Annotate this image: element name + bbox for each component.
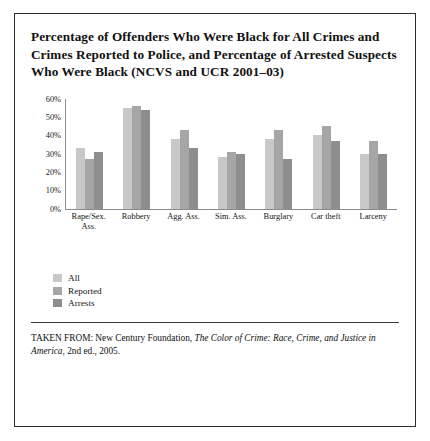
legend-item: Reported — [53, 285, 399, 297]
bar-group — [255, 99, 302, 209]
bar — [94, 152, 103, 209]
bar — [331, 141, 340, 209]
bar — [123, 108, 132, 209]
bar — [236, 154, 245, 209]
legend-label: Reported — [68, 286, 102, 296]
bar — [141, 110, 150, 209]
bar — [85, 159, 94, 209]
bar — [274, 130, 283, 209]
bar — [283, 159, 292, 209]
bar — [369, 141, 378, 209]
y-tick-label: 40% — [46, 131, 61, 140]
legend-swatch-icon — [53, 299, 62, 307]
x-tick-label: Robbery — [112, 212, 159, 232]
x-tick-label: Burglary — [255, 212, 302, 232]
bar — [313, 135, 322, 208]
legend-label: Arrests — [68, 298, 95, 308]
x-axis: Rape/Sex. Ass.RobberyAgg. Ass.Sim. Ass.B… — [65, 212, 397, 232]
figure-frame: Percentage of Offenders Who Were Black f… — [14, 13, 416, 427]
bar-group — [350, 99, 397, 209]
bar-group — [208, 99, 255, 209]
y-tick-label: 30% — [46, 149, 61, 158]
x-tick-label: Sim. Ass. — [207, 212, 254, 232]
bar — [132, 106, 141, 209]
bar-groups-container — [66, 99, 397, 209]
source-prefix: TAKEN FROM: New Century Foundation, — [31, 333, 195, 343]
x-tick-label: Rape/Sex. Ass. — [65, 212, 112, 232]
bar-group — [66, 99, 113, 209]
bar — [227, 152, 236, 209]
legend-item: All — [53, 273, 399, 285]
y-axis: 60%50%40%30%20%10%0% — [31, 99, 61, 209]
source-divider — [31, 322, 399, 323]
x-tick-label: Car theft — [302, 212, 349, 232]
bar — [76, 148, 85, 209]
bar — [189, 148, 198, 209]
y-tick-label: 50% — [46, 112, 61, 121]
bar-group — [302, 99, 349, 209]
legend-swatch-icon — [53, 274, 62, 282]
bar-group — [113, 99, 160, 209]
bar — [378, 154, 387, 209]
y-tick-label: 20% — [46, 167, 61, 176]
bar — [180, 130, 189, 209]
bar — [360, 154, 369, 209]
legend-label: All — [68, 273, 80, 283]
chart-plot-wrapper: 60%50%40%30%20%10%0% Rape/Sex. Ass.Robbe… — [31, 99, 399, 227]
bar-group — [161, 99, 208, 209]
bar — [265, 139, 274, 209]
bar — [218, 157, 227, 208]
figure-inner: Percentage of Offenders Who Were Black f… — [15, 14, 415, 426]
y-tick-label: 0% — [50, 204, 61, 213]
source-suffix: , 2nd ed., 2005. — [63, 346, 121, 356]
source-note: TAKEN FROM: New Century Foundation, The … — [31, 332, 399, 357]
legend-item: Arrests — [53, 298, 399, 310]
chart-legend: AllReportedArrests — [53, 273, 399, 310]
y-tick-label: 10% — [46, 186, 61, 195]
x-tick-label: Agg. Ass. — [160, 212, 207, 232]
plot-area — [65, 99, 397, 210]
bar — [171, 139, 180, 209]
chart-title: Percentage of Offenders Who Were Black f… — [31, 28, 399, 81]
legend-swatch-icon — [53, 287, 62, 295]
y-tick-label: 60% — [46, 94, 61, 103]
bar — [322, 126, 331, 209]
x-tick-label: Larceny — [350, 212, 397, 232]
